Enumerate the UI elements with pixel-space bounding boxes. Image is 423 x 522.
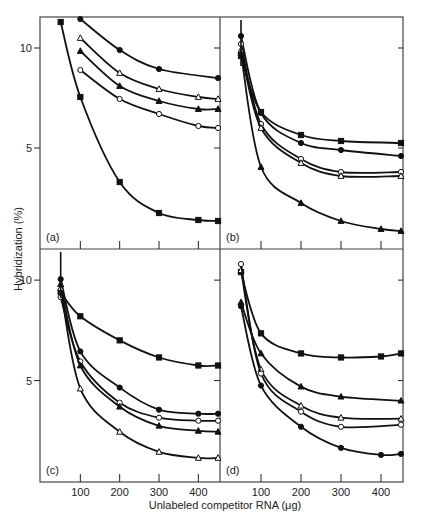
data-point <box>298 351 303 356</box>
series-filled-triangle <box>238 50 404 234</box>
panel-a: 510(a) <box>20 16 221 249</box>
data-point <box>78 94 83 99</box>
panel-label: (a) <box>46 231 59 243</box>
data-point <box>398 451 403 456</box>
data-point <box>196 411 201 416</box>
panel-label: (d) <box>226 464 239 476</box>
y-tick-label: 5 <box>26 142 32 154</box>
data-point <box>156 111 161 116</box>
series-open-circle <box>238 261 403 429</box>
data-point <box>258 371 263 376</box>
data-point <box>196 123 201 128</box>
data-point <box>338 355 343 360</box>
data-point <box>238 261 243 266</box>
data-point <box>117 385 122 390</box>
data-point <box>78 349 83 354</box>
x-tick-label: 400 <box>189 486 207 498</box>
data-point <box>77 385 83 391</box>
x-tick-label: 200 <box>292 486 310 498</box>
hybridization-figure: 510(a)(b)100200300400510(c)100200300400(… <box>0 0 423 522</box>
data-point <box>338 445 343 450</box>
series-line <box>61 279 218 414</box>
series-open-triangle <box>58 285 221 460</box>
x-tick-label: 200 <box>111 486 129 498</box>
data-point <box>117 179 122 184</box>
series-filled-square <box>58 19 221 223</box>
figure-frame <box>40 17 403 482</box>
data-point <box>258 110 263 115</box>
series-line <box>241 264 401 427</box>
panels: 510(a)(b)100200300400510(c)100200300400(… <box>20 16 404 498</box>
data-point <box>258 383 263 388</box>
series-line <box>61 292 218 366</box>
series-line <box>80 38 218 99</box>
data-point <box>58 19 63 24</box>
data-point <box>298 140 303 145</box>
x-tick-label: 300 <box>332 486 350 498</box>
data-point <box>338 138 343 143</box>
series-filled-square <box>238 269 403 360</box>
data-point <box>298 409 303 414</box>
data-point <box>196 217 201 222</box>
data-point <box>117 338 122 343</box>
series-line <box>241 272 401 358</box>
data-point <box>215 411 220 416</box>
data-point <box>196 418 201 423</box>
data-point <box>196 363 201 368</box>
series-filled-triangle <box>77 48 221 112</box>
panel-label: (b) <box>226 231 239 243</box>
series-open-triangle <box>238 267 404 421</box>
data-point <box>215 218 220 223</box>
data-point <box>398 140 403 145</box>
data-point <box>117 47 122 52</box>
data-point <box>117 96 122 101</box>
series-line <box>241 50 401 177</box>
y-tick-label: 5 <box>26 375 32 387</box>
series-line <box>241 36 401 156</box>
data-point <box>156 355 161 360</box>
series-filled-circle <box>238 304 403 458</box>
data-point <box>77 48 83 54</box>
series-filled-circle <box>78 16 221 80</box>
data-point <box>378 452 383 457</box>
data-point <box>398 422 403 427</box>
data-point <box>338 147 343 152</box>
data-point <box>398 351 403 356</box>
data-point <box>398 153 403 158</box>
x-tick-label: 100 <box>252 486 270 498</box>
data-point <box>156 415 161 420</box>
data-point <box>298 424 303 429</box>
data-point <box>258 164 264 170</box>
y-axis-title: Hybridization (%) <box>12 207 24 291</box>
x-tick-label: 100 <box>71 486 89 498</box>
data-point <box>77 35 83 41</box>
series-line <box>241 270 401 419</box>
data-point <box>258 331 263 336</box>
data-point <box>215 363 220 368</box>
series-line <box>80 51 218 110</box>
data-point <box>156 66 161 71</box>
data-point <box>215 125 220 130</box>
data-point <box>298 132 303 137</box>
data-point <box>215 418 220 423</box>
series-line <box>80 19 218 78</box>
data-point <box>78 314 83 319</box>
panel-c: 100200300400510(c) <box>20 252 221 498</box>
x-axis-title: Unlabeled competitor RNA (μg) <box>149 499 301 511</box>
data-point <box>238 304 243 309</box>
data-point <box>78 67 83 72</box>
x-tick-label: 300 <box>150 486 168 498</box>
panel-b: (b) <box>214 20 404 249</box>
data-point <box>378 354 383 359</box>
data-point <box>338 424 343 429</box>
series-filled-triangle <box>58 281 221 434</box>
series-line <box>61 22 218 221</box>
panel-d: 100200300400(d) <box>214 261 404 498</box>
data-point <box>78 16 83 21</box>
data-point <box>156 210 161 215</box>
x-tick-label: 400 <box>372 486 390 498</box>
data-point <box>156 407 161 412</box>
y-tick-label: 10 <box>20 42 32 54</box>
data-point <box>215 75 220 80</box>
series-line <box>241 302 401 401</box>
